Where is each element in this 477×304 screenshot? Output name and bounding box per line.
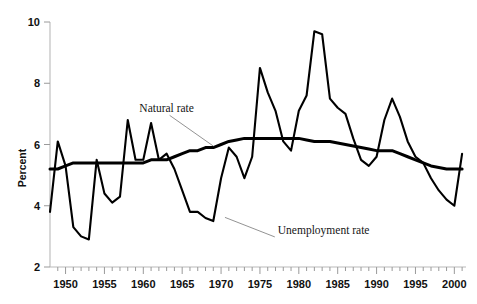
x-tick-label-2000: 2000 <box>442 278 466 290</box>
x-axis-tick-labels: 1950195519601965197019751980198519901995… <box>53 278 466 290</box>
y-axis-title: Percent <box>16 148 28 187</box>
y-tick-label-8: 8 <box>34 77 40 89</box>
y-axis-title-group: Percent <box>16 148 28 187</box>
x-tick-label-1950: 1950 <box>53 278 77 290</box>
x-tick-label-1960: 1960 <box>131 278 155 290</box>
annotation-natural-rate: Natural rate <box>139 102 194 114</box>
y-tick-label-10: 10 <box>28 16 40 28</box>
x-tick-label-1975: 1975 <box>248 278 272 290</box>
x-tick-label-1990: 1990 <box>364 278 388 290</box>
x-tick-label-1970: 1970 <box>209 278 233 290</box>
chart-container: 246810 195019551960196519701975198019851… <box>0 0 477 304</box>
x-tick-label-1985: 1985 <box>325 278 349 290</box>
x-tick-label-1995: 1995 <box>403 278 427 290</box>
x-tick-label-1955: 1955 <box>92 278 116 290</box>
y-tick-label-6: 6 <box>34 139 40 151</box>
y-tick-label-2: 2 <box>34 261 40 273</box>
plot-background <box>0 0 477 304</box>
annotation-unemployment-rate: Unemployment rate <box>278 224 370 237</box>
x-tick-label-1965: 1965 <box>170 278 194 290</box>
x-tick-label-1980: 1980 <box>287 278 311 290</box>
unemployment-natural-rate-chart: 246810 195019551960196519701975198019851… <box>0 0 477 304</box>
y-tick-label-4: 4 <box>34 200 41 212</box>
